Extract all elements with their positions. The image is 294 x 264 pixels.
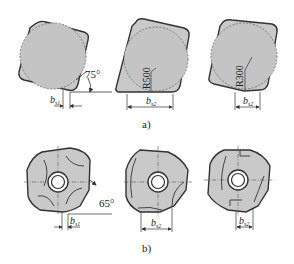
angle-label-a1: 75° [85,68,100,80]
width-label-a2: bs2 [146,95,156,107]
width-label-b1: bs1 [70,215,80,227]
insert-b3: bs2 [204,146,274,230]
width-label-b2: bs2 [151,217,161,229]
insert-a1: 75° bs1 [19,21,112,109]
insert-b2: bs2 [124,146,192,232]
radius-label-a2: R500 [141,67,152,89]
width-label-b3: bs2 [239,215,249,227]
insert-a3: R300 bs2 [209,20,277,110]
insert-diagram: 75° bs1 R500 bs2 R300 bs2 a) [0,0,294,264]
angle-label-b1: 65° [99,197,114,209]
insert-b1: 65° bs1 [24,146,114,230]
width-label-a1: bs1 [50,94,60,106]
insert-a2: R500 bs2 [116,19,189,110]
caption-a: a) [142,118,151,131]
radius-label-a3: R300 [234,65,245,87]
width-label-a3: bs2 [243,95,253,107]
caption-b: b) [142,242,152,255]
